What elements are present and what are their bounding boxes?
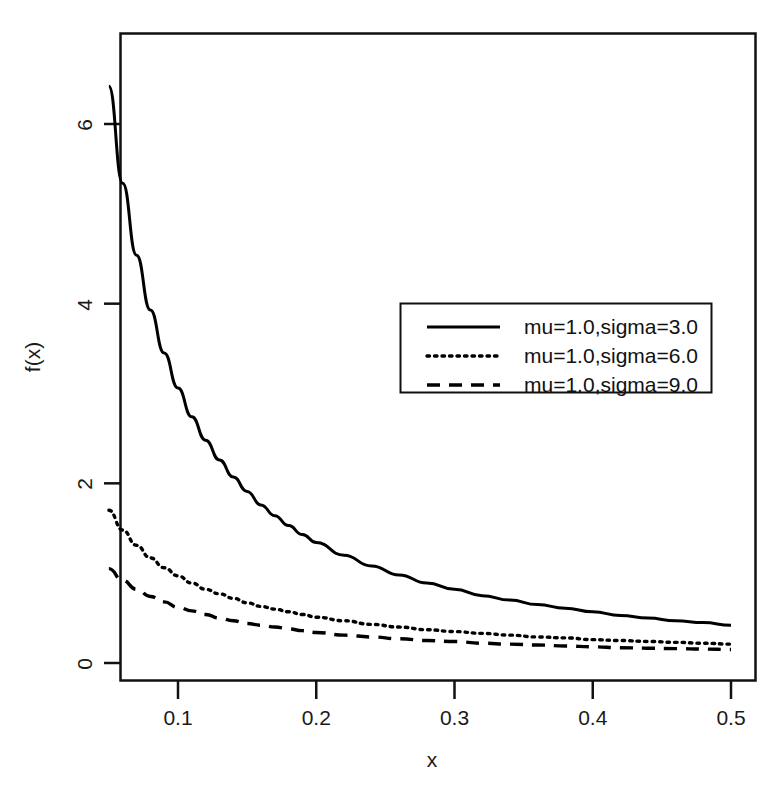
legend-line-samples xyxy=(427,327,500,385)
x-tick-label: 0.5 xyxy=(691,706,771,730)
y-tick-label: 2 xyxy=(73,473,97,495)
series-line xyxy=(109,510,731,644)
x-tick-label: 0.2 xyxy=(276,706,356,730)
legend-label: mu=1.0,sigma=6.0 xyxy=(524,344,698,368)
legend-label: mu=1.0,sigma=3.0 xyxy=(524,315,698,339)
y-tick-label: 6 xyxy=(73,114,97,136)
x-axis-ticks xyxy=(178,680,731,699)
legend-label: mu=1.0,sigma=9.0 xyxy=(524,373,698,397)
y-axis-title: f(x) xyxy=(21,324,45,390)
x-tick-label: 0.1 xyxy=(138,706,218,730)
y-tick-label: 4 xyxy=(73,294,97,316)
x-tick-label: 0.3 xyxy=(415,706,495,730)
y-tick-label: 0 xyxy=(73,653,97,675)
x-tick-label: 0.4 xyxy=(553,706,633,730)
x-axis-title: x xyxy=(392,748,472,772)
y-axis-ticks xyxy=(104,124,120,663)
chart-figure: 0246 0.10.20.30.40.5 f(x) x mu=1.0,sigma… xyxy=(0,0,778,790)
